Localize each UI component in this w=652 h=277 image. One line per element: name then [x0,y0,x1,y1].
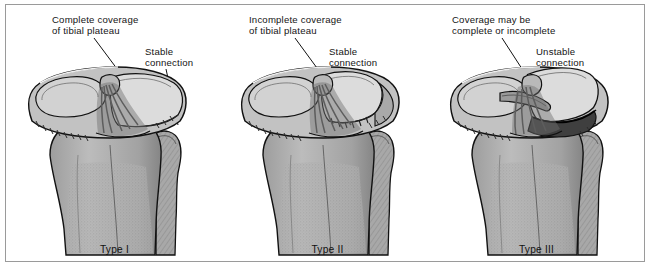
figure-frame: Complete coverage of tibial plateau Stab… [5,4,645,262]
panel-type-3: Coverage may be complete or incomplete U… [428,5,645,263]
tibia-illustration [428,5,645,263]
tibial-plateau-fracture-figure: Complete coverage of tibial plateau Stab… [0,0,652,277]
panel-caption: Type I [6,244,223,255]
panel-type-2: Incomplete coverage of tibial plateau St… [219,5,436,263]
tibia-illustration [219,5,436,263]
panel-caption: Type II [219,244,436,255]
panel-type-1: Complete coverage of tibial plateau Stab… [6,5,223,263]
panel-caption: Type III [428,244,645,255]
tibia-illustration [6,5,223,263]
